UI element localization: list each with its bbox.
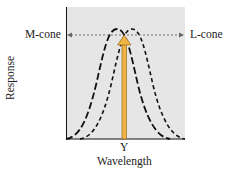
- cone-response-diagram: [0, 0, 229, 178]
- m-cone-label: M-cone: [25, 28, 61, 40]
- l-cone-label: L-cone: [190, 28, 223, 40]
- x-axis-label: Wavelength: [97, 155, 152, 167]
- x-tick-y: Y: [120, 141, 128, 153]
- y-axis-label: Response: [4, 56, 16, 100]
- wavelength-marker-arrow: [122, 44, 127, 139]
